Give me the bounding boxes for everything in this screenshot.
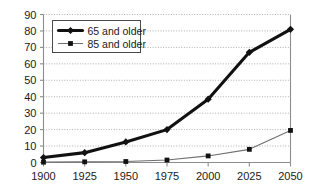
y-axis-label-0: 0: [30, 157, 36, 169]
y-axis-tick-labels: 0102030405060708090: [24, 9, 36, 169]
x-axis-label-2000: 2000: [196, 170, 220, 182]
legend-swatch-marker-2: [68, 41, 73, 46]
y-axis-label-20: 20: [24, 124, 36, 136]
data-point-2-2000: [206, 154, 211, 159]
x-axis-label-2025: 2025: [237, 170, 261, 182]
y-axis-label-10: 10: [24, 140, 36, 152]
data-point-1-1925: [81, 149, 88, 156]
chart-legend: 65 and older85 and older: [53, 21, 147, 53]
legend-label-2: 85 and older: [88, 38, 147, 50]
data-point-2-1925: [82, 159, 87, 164]
data-point-2-1900: [41, 160, 46, 165]
data-point-2-1950: [123, 159, 128, 164]
data-point-2-2050: [288, 128, 293, 133]
x-axis-label-1925: 1925: [72, 170, 96, 182]
data-point-1-1950: [122, 138, 129, 145]
x-axis-label-1975: 1975: [155, 170, 179, 182]
y-axis-label-50: 50: [24, 74, 36, 86]
x-axis-label-2050: 2050: [278, 170, 302, 182]
legend-label-1: 65 and older: [88, 25, 147, 37]
y-axis-label-40: 40: [24, 91, 36, 103]
x-axis-tick-labels: 1900192519501975200020252050: [31, 170, 302, 182]
y-axis-label-60: 60: [24, 58, 36, 70]
chart-container: 0102030405060708090 19001925195019752000…: [0, 0, 311, 193]
data-point-2-1975: [165, 158, 170, 163]
x-axis-label-1950: 1950: [114, 170, 138, 182]
data-point-2-2025: [247, 147, 252, 152]
x-axis-label-1900: 1900: [31, 170, 55, 182]
line-chart: 0102030405060708090 19001925195019752000…: [0, 0, 311, 193]
y-axis-label-30: 30: [24, 107, 36, 119]
y-axis-label-80: 80: [24, 25, 36, 37]
y-axis-label-70: 70: [24, 41, 36, 53]
x-tick-marks: [44, 163, 291, 167]
y-axis-label-90: 90: [24, 9, 36, 21]
